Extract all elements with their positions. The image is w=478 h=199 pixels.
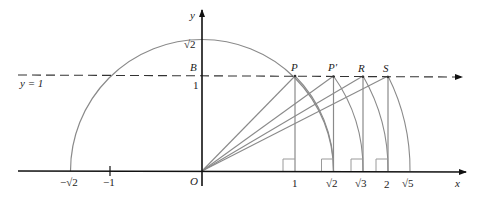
x-tick-sqrt3: √3 — [355, 177, 367, 189]
line-y-equals-1 — [18, 75, 462, 77]
point-S-label: S — [383, 62, 389, 74]
line-label: y = 1 — [19, 77, 43, 89]
x-tick-1: 1 — [292, 177, 298, 189]
y-axis-label: y — [189, 9, 195, 21]
x-tick-sqrt2: √2 — [326, 177, 338, 189]
y-tick-sqrt2: √2 — [184, 38, 196, 50]
x-tick-minus-sqrt2: −√2 — [60, 176, 78, 188]
origin-label: O — [190, 175, 198, 187]
point-P-prime-label: P′ — [327, 61, 338, 73]
x-tick-sqrt5: √5 — [402, 177, 414, 189]
point-B-label: B — [190, 61, 197, 73]
point-P-label: P — [290, 61, 298, 73]
perpendiculars — [295, 76, 388, 171]
construction-arcs — [295, 76, 410, 171]
diagram-canvas: y x O √2 B 1 y = 1 P P′ R S −√2 −1 1 √2 … — [0, 0, 478, 199]
x-axis-label: x — [454, 177, 460, 189]
x-tick-2: 2 — [384, 178, 390, 190]
x-tick-minus-1: −1 — [103, 176, 115, 188]
right-angle-markers — [283, 159, 388, 171]
point-R-label: R — [357, 62, 365, 74]
y-tick-1: 1 — [193, 79, 199, 91]
x-axis — [18, 171, 466, 172]
